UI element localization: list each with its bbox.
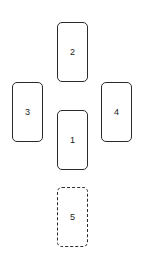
node-card-3-label: 3 <box>25 108 30 117</box>
node-card-1[interactable]: 1 <box>57 110 88 170</box>
node-card-4[interactable]: 4 <box>101 82 132 142</box>
node-card-4-label: 4 <box>114 108 119 117</box>
node-card-5-placeholder[interactable]: 5 <box>57 187 88 247</box>
node-card-1-label: 1 <box>70 136 75 145</box>
node-card-2-label: 2 <box>70 48 75 57</box>
node-card-2[interactable]: 2 <box>57 22 88 82</box>
diagram-canvas: 2 3 4 1 5 <box>0 0 142 260</box>
node-card-3[interactable]: 3 <box>12 82 43 142</box>
node-card-5-label: 5 <box>70 213 75 222</box>
